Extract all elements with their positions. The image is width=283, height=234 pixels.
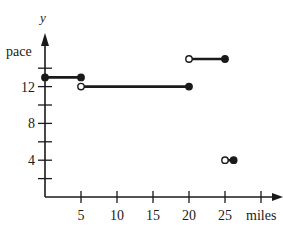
x-tick-label: 25 [218, 208, 232, 223]
step-function-chart: 5101520254812 y pace miles [0, 0, 283, 234]
filled-endpoint-icon [186, 83, 192, 89]
y-tick-label: 8 [28, 116, 35, 131]
x-tick-label: 20 [182, 208, 196, 223]
open-endpoint-icon [222, 157, 228, 163]
tick-marks: 5101520254812 [21, 68, 261, 223]
filled-endpoint-icon [230, 157, 236, 163]
open-endpoint-icon [186, 56, 192, 62]
x-tick-label: 10 [110, 208, 124, 223]
axes [41, 33, 283, 201]
x-axis-arrow-icon [272, 193, 283, 201]
filled-endpoint-icon [42, 74, 48, 80]
y-axis-arrow-icon [41, 33, 49, 46]
segment-2 [78, 83, 192, 89]
x-axis-label: miles [246, 208, 276, 223]
segment-1 [42, 74, 84, 80]
data-segments [42, 56, 237, 164]
open-endpoint-icon [78, 83, 84, 89]
segment-3 [186, 56, 228, 62]
filled-endpoint-icon [222, 56, 228, 62]
y-axis-letter: y [38, 10, 46, 25]
y-tick-label: 12 [21, 80, 35, 95]
filled-endpoint-icon [78, 74, 84, 80]
x-tick-label: 5 [78, 208, 85, 223]
x-tick-label: 15 [146, 208, 160, 223]
segment-4 [222, 157, 237, 163]
y-tick-label: 4 [28, 153, 35, 168]
y-axis-label: pace [6, 44, 32, 59]
